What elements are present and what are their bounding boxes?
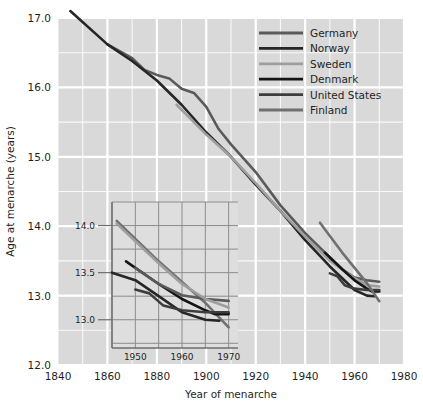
inset-ytick-label: 13.5 <box>75 268 95 278</box>
inset-xtick-label: 1960 <box>171 352 194 362</box>
xtick-label: 1960 <box>341 370 368 382</box>
ytick-label: 15.0 <box>28 151 51 163</box>
xtick-label: 1900 <box>193 370 220 382</box>
legend-label-sweden: Sweden <box>310 58 352 70</box>
y-axis-title: Age at menarche (years) <box>4 126 16 257</box>
xtick-label: 1920 <box>242 370 269 382</box>
xtick-label: 1880 <box>143 370 170 382</box>
xtick-label: 1980 <box>391 370 418 382</box>
inset-ytick-label: 14.0 <box>75 221 95 231</box>
legend-label-norway: Norway <box>310 42 350 54</box>
chart-canvas: 13.013.514.019501960197012.013.014.015.0… <box>0 0 423 417</box>
inset-xtick-label: 1970 <box>217 352 240 362</box>
x-axis-title: Year of menarche <box>184 388 277 400</box>
ytick-label: 16.0 <box>28 81 51 93</box>
legend-label-united-states: United States <box>310 89 381 101</box>
xtick-label: 1860 <box>94 370 121 382</box>
legend-label-denmark: Denmark <box>310 73 359 85</box>
xtick-label: 1940 <box>292 370 319 382</box>
ytick-label: 14.0 <box>28 220 51 232</box>
legend-label-germany: Germany <box>310 27 358 39</box>
ytick-label: 17.0 <box>28 12 51 24</box>
menarche-age-line-chart: 13.013.514.019501960197012.013.014.015.0… <box>0 0 423 417</box>
inset-xtick-label: 1950 <box>124 352 147 362</box>
legend-label-finland: Finland <box>310 104 348 116</box>
inset-ytick-label: 13.0 <box>75 315 95 325</box>
xtick-label: 1840 <box>45 370 72 382</box>
ytick-label: 13.0 <box>28 290 51 302</box>
